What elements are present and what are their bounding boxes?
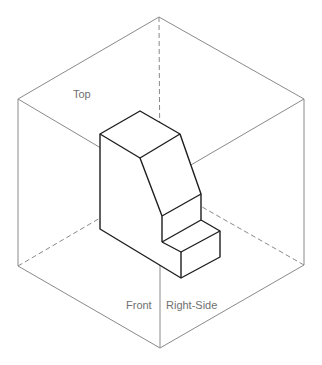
right-side-view-label: Right-Side <box>166 299 217 311</box>
stepped-object <box>100 111 220 278</box>
glass-box-diagram <box>0 0 322 365</box>
top-view-label: Top <box>73 88 91 100</box>
object-fill <box>100 111 220 278</box>
front-view-label: Front <box>126 299 152 311</box>
